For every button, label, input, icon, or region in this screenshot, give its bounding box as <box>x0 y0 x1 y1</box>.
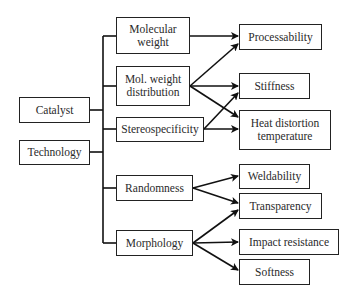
mol-weight-distribution-label: Mol. weight distribution <box>119 73 187 99</box>
stiffness-box: Stiffness <box>239 73 310 99</box>
heat-distortion-temperature-label: Heat distortion temperature <box>248 117 322 143</box>
catalyst-label: Catalyst <box>36 104 74 117</box>
randomness-box: Randomness <box>116 175 193 201</box>
molecular-weight-label: Molecular weight <box>127 23 179 49</box>
impact-resistance-label: Impact resistance <box>249 236 329 249</box>
technology-box: Technology <box>19 140 90 165</box>
processability-box: Processability <box>239 24 322 50</box>
catalyst-box: Catalyst <box>19 97 90 123</box>
processability-label: Processability <box>248 31 313 44</box>
transparency-box: Transparency <box>239 193 322 219</box>
mol-weight-distribution-box: Mol. weight distribution <box>116 66 190 106</box>
heat-distortion-temperature-box: Heat distortion temperature <box>239 110 331 150</box>
softness-label: Softness <box>255 266 294 279</box>
transparency-label: Transparency <box>249 200 311 213</box>
morphology-box: Morphology <box>116 230 193 256</box>
randomness-label: Randomness <box>125 182 184 195</box>
technology-label: Technology <box>27 146 81 159</box>
stiffness-label: Stiffness <box>254 80 294 93</box>
weldability-box: Weldability <box>239 164 310 189</box>
impact-resistance-box: Impact resistance <box>239 229 339 255</box>
molecular-weight-box: Molecular weight <box>116 17 190 54</box>
morphology-label: Morphology <box>126 237 184 250</box>
stereospecificity-label: Stereospecificity <box>121 123 198 136</box>
weldability-label: Weldability <box>248 170 301 183</box>
softness-box: Softness <box>239 259 310 285</box>
stereospecificity-box: Stereospecificity <box>116 117 204 142</box>
